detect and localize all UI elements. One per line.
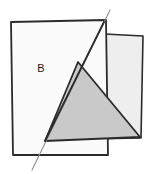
geometry-diagram: B bbox=[0, 0, 151, 174]
figure-container: B bbox=[0, 0, 151, 174]
region-label-b: B bbox=[37, 62, 44, 74]
